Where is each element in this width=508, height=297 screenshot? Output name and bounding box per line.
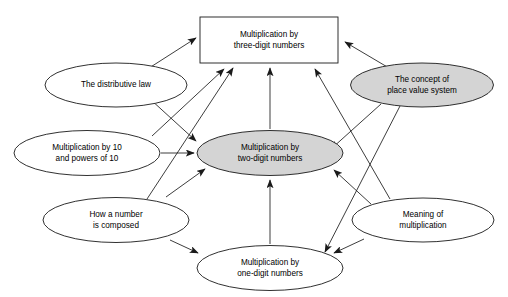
concept-map-svg: Multiplication bythree-digit numbersThe … — [0, 0, 508, 297]
edge-how-composed-to-one-digit — [170, 240, 198, 253]
node-label-place-value: place value system — [387, 86, 457, 95]
node-label-distributive-law: The distributive law — [81, 80, 151, 89]
node-label-three-digit: Multiplication by — [240, 30, 299, 39]
node-label-powers-of-ten: Multiplication by 10 — [52, 143, 122, 152]
edge-distributive-law-to-three-digit — [146, 38, 196, 70]
node-meaning[interactable]: Meaning ofmultiplication — [352, 198, 494, 242]
node-label-two-digit: Multiplication by — [241, 143, 300, 152]
node-two-digit[interactable]: Multiplication bytwo-digit numbers — [197, 131, 343, 176]
diagram-canvas: Multiplication bythree-digit numbersThe … — [0, 0, 508, 297]
node-label-how-composed: is composed — [93, 221, 139, 230]
edge-place-value-to-two-digit — [331, 104, 381, 149]
node-label-meaning: multiplication — [399, 221, 447, 230]
node-label-one-digit: Multiplication by — [241, 258, 300, 267]
node-label-meaning: Meaning of — [403, 210, 444, 219]
node-label-how-composed: How a number — [89, 210, 143, 219]
nodes-layer: Multiplication bythree-digit numbersThe … — [14, 17, 494, 291]
node-one-digit[interactable]: Multiplication byone-digit numbers — [197, 246, 343, 291]
node-powers-of-ten[interactable]: Multiplication by 10and powers of 10 — [14, 131, 160, 176]
node-three-digit[interactable]: Multiplication bythree-digit numbers — [200, 17, 338, 63]
node-label-three-digit: three-digit numbers — [234, 41, 305, 50]
node-label-place-value: The concept of — [395, 75, 450, 84]
node-place-value[interactable]: The concept ofplace value system — [351, 63, 494, 107]
node-label-powers-of-ten: and powers of 10 — [56, 154, 119, 163]
edge-place-value-to-three-digit — [345, 42, 389, 68]
edge-how-composed-to-two-digit — [166, 169, 205, 197]
node-how-composed[interactable]: How a numberis composed — [43, 198, 189, 243]
edge-meaning-to-one-digit — [334, 239, 364, 253]
node-label-two-digit: two-digit numbers — [238, 154, 303, 163]
node-label-one-digit: one-digit numbers — [237, 269, 303, 278]
node-distributive-law[interactable]: The distributive law — [45, 63, 187, 107]
